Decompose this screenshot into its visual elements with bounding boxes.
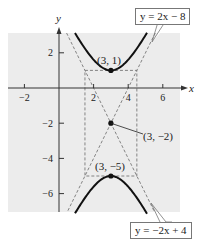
point-label-vertex-bottom: (3, −5) bbox=[95, 160, 125, 173]
axis-label-x: x bbox=[188, 82, 194, 94]
y-axis-arrow-icon bbox=[57, 27, 62, 34]
point-marker-1 bbox=[108, 68, 113, 73]
asymptote-label-lower-text: y = −2x + 4 bbox=[135, 224, 187, 236]
y-tick-label: −2 bbox=[42, 118, 53, 129]
x-tick-label: 6 bbox=[160, 92, 165, 103]
point-label-vertex-top: (3, 1) bbox=[97, 54, 121, 67]
point-label-center: (3, −2) bbox=[143, 130, 173, 143]
asymptote-label-lower: y = −2x + 4 bbox=[130, 222, 192, 239]
point-marker-3 bbox=[108, 173, 113, 178]
x-axis-arrow-icon bbox=[181, 86, 188, 91]
x-tick-label: −2 bbox=[19, 92, 30, 103]
y-tick-label: −4 bbox=[42, 153, 53, 164]
x-tick-label: 4 bbox=[126, 92, 131, 103]
y-tick-label: −6 bbox=[42, 188, 53, 199]
x-tick-label: 2 bbox=[91, 92, 96, 103]
axis-label-y: y bbox=[55, 12, 61, 24]
hyperbola-chart: −22462−2−4−6 y x (3, 1) (3, −2) (3, −5) … bbox=[0, 0, 201, 246]
y-tick-label: 2 bbox=[48, 47, 53, 58]
asymptote-label-upper-text: y = 2x − 8 bbox=[140, 10, 185, 22]
asymptote-label-upper: y = 2x − 8 bbox=[135, 8, 190, 25]
